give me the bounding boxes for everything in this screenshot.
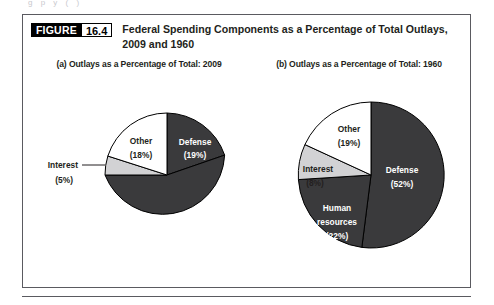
pie-value-human-resources-2009: (56%) [161, 231, 184, 241]
pie-label-other-2009: Other [130, 136, 153, 146]
figure-tag-number: 16.4 [82, 23, 112, 37]
pie-label-other-1960: Other [338, 124, 361, 134]
pie-value-other-2009: (18%) [130, 150, 153, 160]
pie-label-interest-1960: Interest [303, 164, 333, 174]
pie-label-human-resources-1960-line2: resources [317, 217, 357, 227]
figure-header: FIGURE 16.4 Federal Spending Components … [23, 15, 470, 51]
pie-label-defense-1960: Defense [386, 165, 419, 175]
figure-tag-word: FIGURE [31, 23, 82, 37]
pie-value-interest-1960: (8%) [306, 178, 324, 188]
pie-label-interest-2009: Interest [48, 160, 78, 170]
page-bleed-text: g p y ( ) [0, 0, 494, 9]
pie-value-human-resources-1960: (22%) [326, 231, 349, 241]
page-bottom-rule [22, 296, 471, 297]
pie-value-defense-2009: (19%) [184, 150, 207, 160]
figure-tag: FIGURE 16.4 [31, 23, 112, 37]
pie-label-human-resources-1960-line1: Human [323, 203, 351, 213]
pie-label-defense-2009: Defense [179, 137, 212, 147]
chart-panel-1960: (b) Outlays as a Percentage of Total: 19… [245, 59, 473, 287]
pie-value-other-1960: (19%) [338, 138, 361, 148]
pie-chart-1960: Defense (52%) Human resources (22%) Inte… [245, 73, 473, 287]
chart-panel-2009: (a) Outlays as a Percentage of Total: 20… [25, 59, 253, 287]
figure-box: FIGURE 16.4 Federal Spending Components … [22, 14, 471, 288]
pie-value-interest-2009: (5%) [55, 175, 73, 185]
pie-chart-2009: Defense (19%) Human resources (56%) Inte… [25, 73, 253, 287]
chart-caption-1960: (b) Outlays as a Percentage of Total: 19… [245, 59, 473, 69]
pie-label-human-resources-2009: Human resources [137, 217, 208, 227]
charts-area: (a) Outlays as a Percentage of Total: 20… [23, 59, 470, 287]
chart-caption-2009: (a) Outlays as a Percentage of Total: 20… [25, 59, 253, 69]
pie-value-defense-1960: (52%) [391, 179, 414, 189]
figure-title: Federal Spending Components as a Percent… [122, 22, 460, 51]
